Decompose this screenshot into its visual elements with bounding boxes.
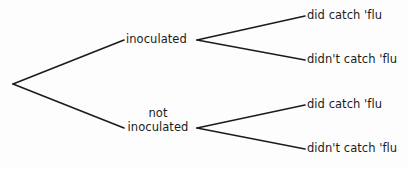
node-label-not-inoculated-line-1: not bbox=[126, 107, 190, 121]
edge-not-inoculated-to-did-catch bbox=[197, 105, 305, 128]
leaf-label-not-inoculated-didnt-catch: didn't catch 'flu bbox=[307, 142, 397, 156]
edge-root-to-inoculated bbox=[13, 40, 124, 84]
leaf-label-not-inoculated-did-catch: did catch 'flu bbox=[307, 98, 382, 112]
node-label-not-inoculated: not inoculated bbox=[126, 107, 190, 134]
leaf-label-inoculated-did-catch: did catch 'flu bbox=[307, 9, 382, 23]
leaf-label-inoculated-didnt-catch: didn't catch 'flu bbox=[307, 53, 397, 67]
edge-root-to-not-inoculated bbox=[13, 84, 124, 128]
node-label-not-inoculated-line-2: inoculated bbox=[126, 121, 190, 135]
edge-not-inoculated-to-didnt-catch bbox=[197, 128, 305, 149]
probability-tree-diagram: inoculated not inoculated did catch 'flu… bbox=[0, 0, 408, 169]
node-label-inoculated: inoculated bbox=[126, 33, 187, 47]
edge-inoculated-to-didnt-catch bbox=[197, 40, 305, 60]
edge-inoculated-to-did-catch bbox=[197, 16, 305, 40]
